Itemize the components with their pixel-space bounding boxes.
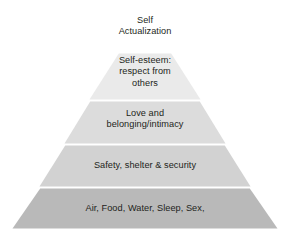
pyramid-tier-1-apex bbox=[118, 8, 172, 52]
pyramid-tier-3 bbox=[65, 102, 226, 144]
pyramid-tier-2 bbox=[90, 54, 201, 100]
pyramid-shape bbox=[0, 0, 290, 241]
maslow-pyramid-diagram: Self Actualization Self-esteem: respect … bbox=[0, 0, 290, 241]
pyramid-tier-5-base bbox=[13, 189, 278, 229]
pyramid-tier-4 bbox=[40, 146, 251, 187]
